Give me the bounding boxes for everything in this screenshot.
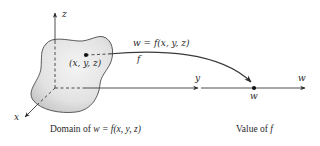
function-label: f (136, 54, 142, 64)
value-caption-prefix: Value of (236, 124, 270, 134)
domain-caption-prefix: Domain of (50, 124, 93, 134)
x-axis-label: x (14, 112, 19, 122)
function-mapping-diagram: z y x (x, y, z) w = f(x, y, z) f w w Dom… (0, 0, 320, 146)
domain-caption: Domain of w = f(x, y, z) (50, 124, 141, 135)
w-axis-label: w (298, 73, 306, 83)
value-point (252, 86, 256, 90)
value-caption-f: f (270, 124, 274, 134)
z-axis-label: z (61, 9, 67, 19)
domain-point (84, 53, 88, 57)
y-axis-label: y (194, 73, 201, 83)
x-axis (25, 105, 37, 117)
mapping-arrow (108, 52, 251, 82)
value-point-label: w (250, 91, 258, 101)
domain-caption-formula: w = f(x, y, z) (93, 124, 141, 135)
domain-point-label: (x, y, z) (69, 58, 102, 68)
domain-region (31, 36, 113, 112)
mapping-formula-label: w = f(x, y, z) (133, 38, 190, 48)
value-caption: Value of f (236, 124, 274, 134)
